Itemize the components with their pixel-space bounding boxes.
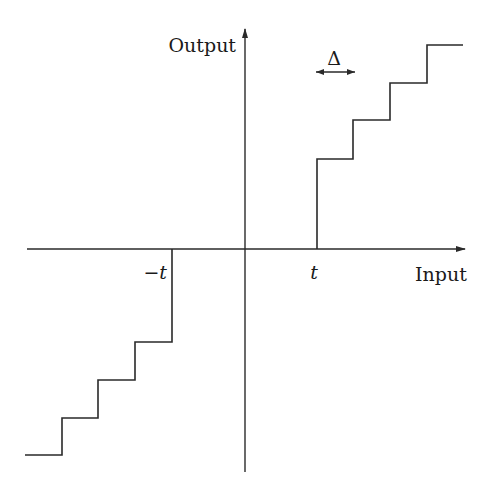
pos-threshold-label: t <box>310 261 318 283</box>
y-axis-label: Output <box>169 34 237 56</box>
neg-threshold-label: −t <box>143 261 167 283</box>
delta-label: Δ <box>327 47 341 69</box>
quantizer-diagram: Output Input −t t Δ <box>0 0 498 498</box>
x-axis-label: Input <box>415 263 467 285</box>
positive-staircase <box>317 45 463 249</box>
